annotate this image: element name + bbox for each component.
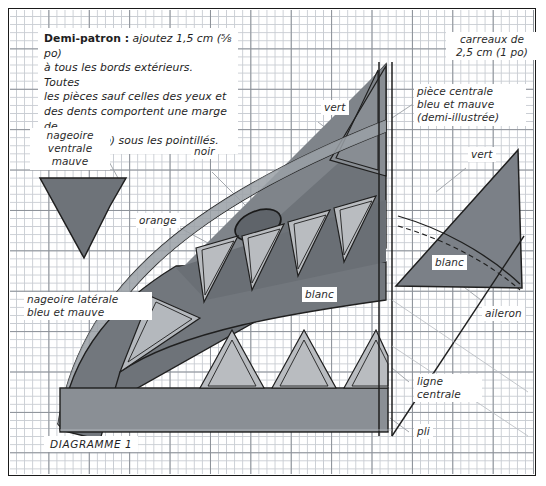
ventral-fin [40,178,126,258]
scale-note: carreaux de 2,5 cm (1 po) [446,32,538,60]
label-vert-right: vert [468,147,496,162]
label-ligne-centrale: ligne centrale [414,374,482,402]
lower-teeth [200,330,388,388]
label-orange: orange [136,213,180,228]
label-piece-centrale: pièce centrale bleu et mauve (demi-illus… [414,84,526,126]
label-nageoire-ventrale: nageoire ventrale mauve [30,128,110,170]
lower-jaw-bar [60,388,388,432]
diagram-caption: DIAGRAMME 1 [44,436,138,452]
label-noir: noir [191,144,218,159]
label-blanc-mouth: blanc [302,287,337,302]
diagram-page: Demi-patron : ajoutez 1,5 cm (⅝ po) à to… [0,0,546,486]
label-aileron: aileron [482,306,525,321]
label-vert-top: vert [321,100,349,115]
label-pli: pli [414,424,433,439]
label-nageoire-laterale: nageoire latérale bleu et mauve [24,292,152,320]
instruction-note-lead: Demi-patron : [44,32,129,45]
label-blanc-right: blanc [432,255,467,270]
